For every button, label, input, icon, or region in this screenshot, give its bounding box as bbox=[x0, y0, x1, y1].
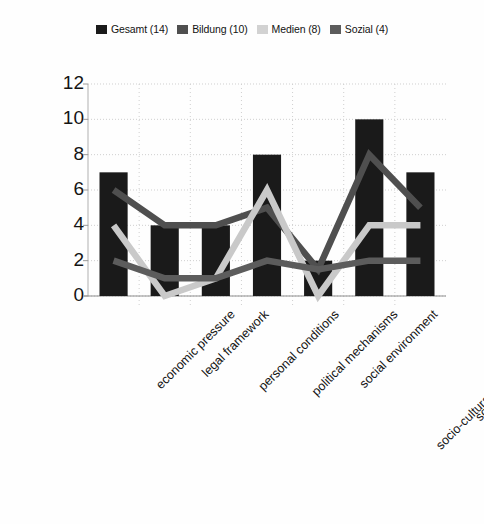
x-axis: economic pressure legal framework person… bbox=[0, 0, 484, 524]
x-label-social-environment: social environment bbox=[358, 308, 441, 391]
chart-figure: Gesamt (14) Bildung (10) Medien (8) Sozi… bbox=[0, 0, 484, 524]
x-label-socio-cultural-values: socio-cultural values and practices bbox=[434, 308, 484, 452]
